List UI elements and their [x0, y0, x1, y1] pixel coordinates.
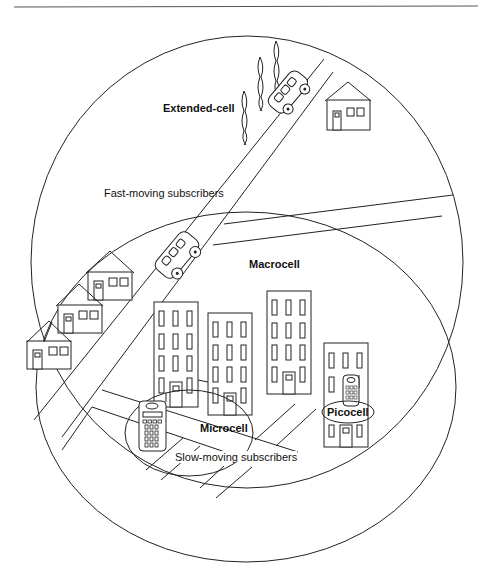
label-extended-cell: Extended-cell — [163, 102, 235, 114]
cell-hierarchy-diagram: Extended-cell Fast-moving subscribers Ma… — [0, 0, 486, 588]
label-picocell: Picocell — [327, 406, 369, 418]
vehicle-middle — [152, 229, 205, 285]
vehicle-top — [265, 68, 314, 119]
building-2 — [198, 313, 252, 415]
top-rule — [14, 6, 478, 7]
label-slow-moving: Slow-moving subscribers — [175, 451, 297, 463]
label-fast-moving: Fast-moving subscribers — [104, 187, 224, 199]
handset-microcell — [139, 393, 166, 451]
side-road — [213, 195, 453, 245]
label-microcell: Microcell — [200, 422, 248, 434]
house-top-right — [325, 82, 371, 130]
house-1 — [86, 251, 134, 300]
building-3 — [267, 291, 311, 394]
label-macrocell: Macrocell — [249, 258, 300, 270]
